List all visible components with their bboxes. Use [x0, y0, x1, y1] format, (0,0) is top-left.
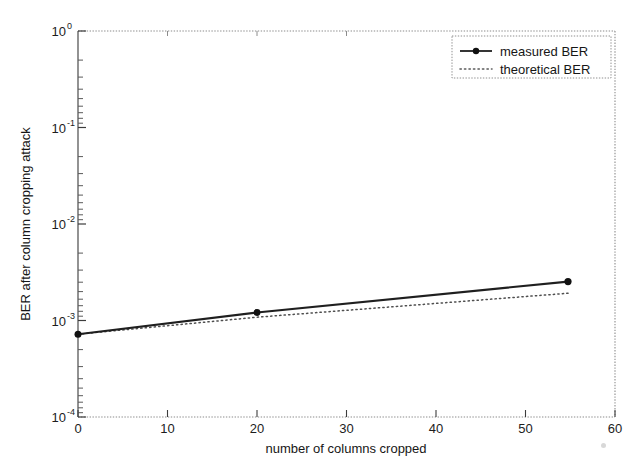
- x-tick-label-60: 60: [608, 421, 622, 436]
- y-tick-label-1e-1-base: 10: [52, 121, 66, 136]
- plot-background: [78, 31, 615, 417]
- x-tick-label-0: 0: [74, 421, 81, 436]
- y-tick-labels: 10 0 10 -1 10 -2 10 -3 10 -4: [52, 21, 75, 425]
- legend-label-measured: measured BER: [500, 44, 588, 59]
- x-tick-label-40: 40: [429, 421, 443, 436]
- x-axis-title: number of columns cropped: [265, 441, 426, 456]
- y-tick-label-1e-4-exp: -4: [67, 407, 75, 417]
- legend[interactable]: measured BER theoretical BER: [452, 36, 611, 78]
- x-tick-label-20: 20: [250, 421, 264, 436]
- legend-label-theoretical: theoretical BER: [500, 62, 590, 77]
- x-tick-labels: 0 10 20 30 40 50 60: [74, 421, 622, 436]
- y-tick-label-1e-2-exp: -2: [67, 214, 75, 224]
- y-tick-label-1e0-base: 10: [52, 24, 66, 39]
- data-point-0: [75, 331, 82, 338]
- y-tick-label-1e-4-base: 10: [52, 410, 66, 425]
- x-tick-label-10: 10: [160, 421, 174, 436]
- y-tick-label-1e-1-exp: -1: [67, 118, 75, 128]
- y-tick-label-1e-2-base: 10: [52, 217, 66, 232]
- figure-container: 10 0 10 -1 10 -2 10 -3 10 -4 0 10 20 30 …: [0, 0, 641, 463]
- y-tick-label-1e-3-exp: -3: [67, 311, 75, 321]
- y-axis-title: BER after column cropping attack: [18, 127, 33, 321]
- x-tick-label-50: 50: [518, 421, 532, 436]
- x-tick-label-30: 30: [339, 421, 353, 436]
- data-point-1: [254, 309, 261, 316]
- y-tick-label-1e-3-base: 10: [52, 314, 66, 329]
- y-tick-label-1e0-exp: 0: [67, 21, 72, 31]
- legend-marker-measured: [473, 48, 479, 54]
- chart-canvas: 10 0 10 -1 10 -2 10 -3 10 -4 0 10 20 30 …: [0, 0, 641, 463]
- data-point-2: [564, 278, 571, 285]
